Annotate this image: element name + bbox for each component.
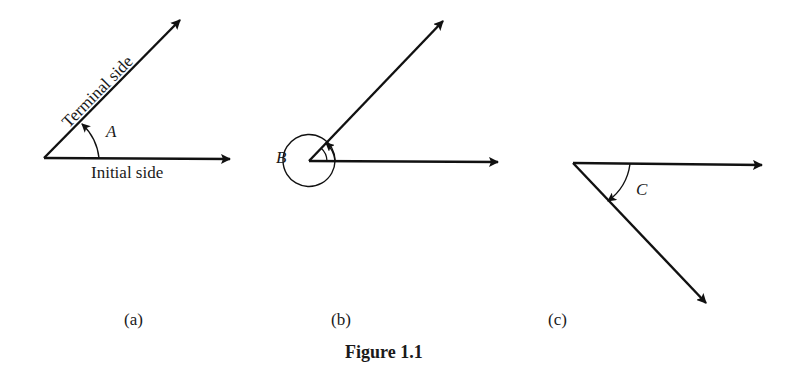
panel-b: [283, 21, 498, 187]
angle-arc-c: [608, 164, 630, 201]
angle-label-a: A: [106, 122, 116, 142]
panel-c: [573, 163, 762, 303]
initial-side-b: [309, 161, 498, 162]
sublabel-c: (c): [548, 310, 567, 330]
angle-label-b: B: [276, 148, 286, 168]
initial-side-a: [44, 158, 230, 159]
terminal-side-b: [309, 21, 443, 161]
initial-side-c: [573, 163, 762, 165]
inner-arc-b: [321, 148, 327, 161]
angle-arc-a: [82, 124, 99, 158]
sublabel-b: (b): [331, 310, 351, 330]
initial-side-label: Initial side: [91, 163, 163, 183]
figure-1-1: Terminal side A Initial side (a) B (b) C…: [0, 0, 797, 369]
sublabel-a: (a): [124, 310, 143, 330]
panel-a: [44, 20, 230, 159]
figure-caption: Figure 1.1: [345, 342, 423, 363]
angle-label-c: C: [636, 180, 647, 200]
